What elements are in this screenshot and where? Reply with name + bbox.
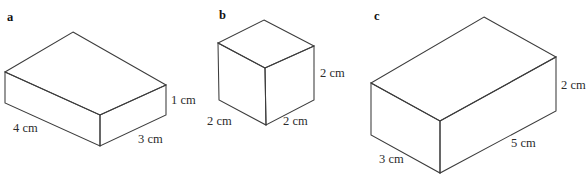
prism-c: c 3 cm 5 cm 2 cm (371, 9, 586, 173)
prism-a: a 4 cm 3 cm 1 cm (5, 10, 196, 146)
prism-b-height-label: 2 cm (320, 66, 345, 80)
prism-b: b 2 cm 2 cm 2 cm (207, 8, 345, 128)
figure-root: a 4 cm 3 cm 1 cm b 2 cm 2 cm 2 cm (0, 0, 588, 181)
prism-b-length-label: 2 cm (207, 114, 232, 128)
prism-b-width-label: 2 cm (283, 114, 308, 128)
prism-a-width-label: 3 cm (138, 132, 163, 146)
prism-c-length-label: 5 cm (511, 136, 536, 150)
part-letter-c: c (374, 9, 380, 23)
prism-a-length-label: 4 cm (13, 121, 38, 135)
part-letter-a: a (7, 10, 14, 24)
prism-c-width-label: 3 cm (379, 152, 404, 166)
part-letter-b: b (219, 8, 226, 22)
prisms-diagram: a 4 cm 3 cm 1 cm b 2 cm 2 cm 2 cm (0, 0, 588, 181)
prism-a-height-label: 1 cm (171, 93, 196, 107)
prism-c-height-label: 2 cm (561, 78, 586, 92)
